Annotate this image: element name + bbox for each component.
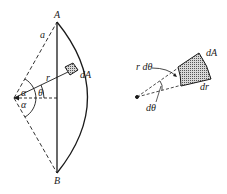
r-dtheta-arrow [152,68,176,76]
label-alpha-top: α [21,88,26,98]
label-theta: θ [38,88,43,98]
label-r-dtheta: r dθ [136,62,152,72]
area-element [65,63,78,75]
label-point-b: B [54,176,60,186]
label-da-right: dA [206,48,217,58]
label-da-left: dA [80,70,91,80]
label-point-a: A [54,10,60,20]
circular-arc [57,22,88,173]
label-dr: dr [200,82,209,92]
label-radius-a: a [40,30,45,40]
label-dtheta: dθ [146,103,156,113]
dtheta-leader [156,86,161,102]
label-r: r [46,73,50,83]
label-alpha-bottom: α [21,100,26,110]
diagram-canvas [0,0,227,194]
